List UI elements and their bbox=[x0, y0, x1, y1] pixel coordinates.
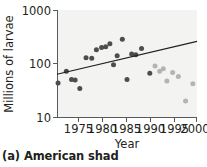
data-point bbox=[103, 44, 108, 49]
data-point bbox=[164, 79, 169, 84]
data-point bbox=[147, 71, 152, 76]
data-point bbox=[73, 78, 78, 83]
data-point bbox=[161, 66, 166, 71]
data-point bbox=[107, 41, 112, 46]
y-axis-title: Millions of larvae bbox=[2, 15, 16, 112]
data-point bbox=[56, 81, 61, 86]
data-point bbox=[84, 55, 89, 60]
y-tick-label-100: 100 bbox=[29, 57, 51, 71]
data-point bbox=[111, 62, 116, 67]
data-point bbox=[153, 63, 158, 68]
figure-caption: (a) American shad bbox=[2, 149, 119, 163]
data-point bbox=[120, 37, 125, 42]
plot-area-background bbox=[57, 10, 197, 117]
y-axis-ticks bbox=[53, 11, 57, 118]
figure-panel: 1000 100 10 1975 1980 1985 1990 1995 200… bbox=[0, 0, 207, 167]
y-tick-label-1000: 1000 bbox=[22, 4, 51, 18]
data-point bbox=[115, 53, 120, 58]
scatter-chart: 1000 100 10 1975 1980 1985 1990 1995 200… bbox=[0, 0, 207, 167]
data-point bbox=[125, 77, 130, 82]
y-tick-label-10: 10 bbox=[36, 111, 51, 125]
data-point bbox=[190, 81, 195, 86]
data-point bbox=[139, 46, 144, 51]
data-point bbox=[176, 74, 181, 79]
data-point bbox=[77, 86, 82, 91]
data-point bbox=[94, 47, 99, 52]
data-point bbox=[170, 70, 175, 75]
x-tick-label-2000: 2000 bbox=[180, 122, 207, 136]
data-point bbox=[183, 98, 188, 103]
data-point bbox=[89, 56, 94, 61]
